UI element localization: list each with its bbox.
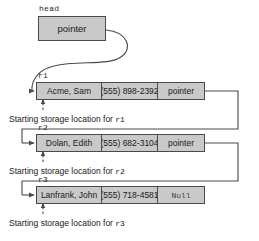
list-node-r1: Acme, Sam (555) 898-2392 pointer (36, 82, 205, 100)
node-pointer-r3: Null (158, 187, 204, 203)
node-phone-r1: (555) 898-2392 (102, 83, 158, 99)
node-label-r2: r2 (38, 123, 48, 132)
head-pointer-box: pointer (38, 16, 106, 41)
head-pointer-value: pointer (57, 23, 86, 34)
caption-text-r1: Starting storage location for (9, 114, 115, 124)
node-label-r1: r1 (38, 71, 48, 80)
node-name-r3: Lanfrank, John (37, 187, 102, 203)
node-pointer-r1: pointer (158, 83, 204, 99)
caption-text-r3: Starting storage location for (9, 218, 115, 228)
node-phone-r3: (555) 718-4581 (102, 187, 158, 203)
caption-text-r2: Starting storage location for (9, 166, 115, 176)
caption-var-r1: r1 (115, 115, 125, 124)
caption-var-r3: r3 (115, 219, 125, 228)
list-node-r3: Lanfrank, John (555) 718-4581 Null (36, 186, 205, 204)
list-node-r2: Dolan, Edith (555) 682-3104 pointer (36, 134, 205, 152)
node-phone-r2: (555) 682-3104 (102, 135, 158, 151)
caption-r2: Starting storage location for r2 (9, 166, 125, 176)
caption-r3: Starting storage location for r3 (9, 218, 125, 228)
caption-r1: Starting storage location for r1 (9, 114, 125, 124)
head-label: head (39, 4, 59, 13)
node-label-r3: r3 (38, 175, 48, 184)
linked-list-diagram: head pointer r1 Acme, Sam (555) 898-2392… (0, 0, 259, 241)
node-pointer-r2: pointer (158, 135, 204, 151)
caption-var-r2: r2 (115, 167, 125, 176)
node-name-r1: Acme, Sam (37, 83, 102, 99)
node-name-r2: Dolan, Edith (37, 135, 102, 151)
